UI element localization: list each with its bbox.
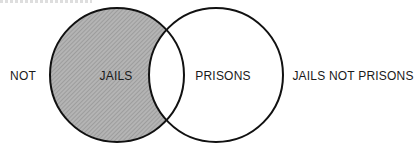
label-jails-not-prisons: JAILS NOT PRISONS [292,69,413,83]
label-jails: JAILS [99,69,132,83]
label-prisons: PRISONS [195,69,250,83]
label-not: NOT [10,69,36,83]
